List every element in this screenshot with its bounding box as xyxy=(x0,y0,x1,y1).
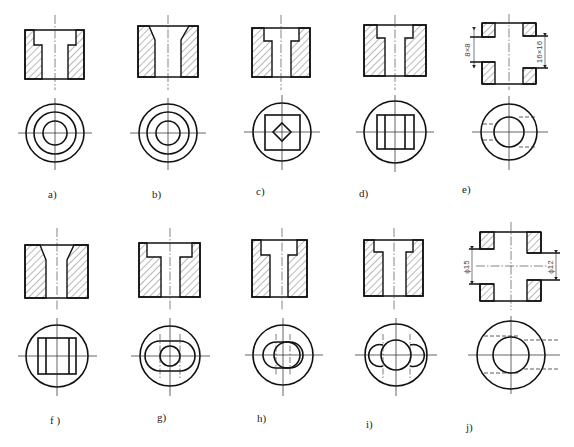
label-b: b) xyxy=(152,188,161,200)
panel-d xyxy=(356,15,434,172)
panel-i xyxy=(355,228,437,396)
dimension-e-right: 16×16 xyxy=(535,40,544,63)
section-view-a xyxy=(25,15,84,90)
top-view-d xyxy=(356,95,434,172)
drawing-sheet: 8×8 16×16 xyxy=(0,0,574,447)
section-view-b xyxy=(138,15,198,90)
top-view-b xyxy=(130,98,206,170)
drawing-canvas: 8×8 16×16 xyxy=(0,0,574,447)
panel-b xyxy=(130,15,206,170)
section-view-f xyxy=(25,228,88,310)
section-view-g xyxy=(139,228,200,310)
top-view-j xyxy=(468,316,560,394)
label-i: i) xyxy=(366,418,373,430)
panel-h xyxy=(245,228,323,396)
label-j: j) xyxy=(466,421,473,433)
top-view-a xyxy=(18,98,92,170)
section-view-e: 8×8 16×16 xyxy=(463,14,548,90)
label-a: a) xyxy=(48,188,57,200)
top-view-e xyxy=(472,96,548,170)
label-h: h) xyxy=(257,412,266,424)
panel-c xyxy=(244,15,320,170)
panel-a xyxy=(18,15,92,170)
label-f: f ) xyxy=(50,414,60,426)
section-view-j: ϕ15 ϕ12 xyxy=(462,222,560,310)
section-view-h xyxy=(252,228,307,310)
section-view-i xyxy=(364,228,423,310)
section-view-c xyxy=(252,15,310,90)
label-d: d) xyxy=(359,187,368,199)
label-g: g) xyxy=(157,411,166,423)
dimension-j-right: ϕ12 xyxy=(546,260,555,274)
panel-j: ϕ15 ϕ12 xyxy=(462,222,560,394)
top-view-g xyxy=(131,318,210,396)
panel-e: 8×8 16×16 xyxy=(463,14,548,170)
top-view-f xyxy=(18,318,97,396)
label-e: e) xyxy=(462,183,471,195)
label-c: c) xyxy=(256,185,265,197)
top-view-h xyxy=(245,318,323,396)
panel-f xyxy=(18,228,97,396)
panel-g xyxy=(131,228,210,396)
dimension-e-left: 8×8 xyxy=(463,43,472,57)
section-view-d xyxy=(364,15,426,90)
top-view-i xyxy=(355,318,437,396)
top-view-c xyxy=(244,95,320,170)
dimension-j-left: ϕ15 xyxy=(462,260,471,274)
